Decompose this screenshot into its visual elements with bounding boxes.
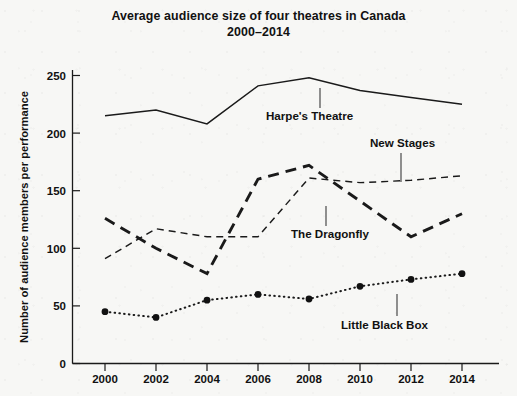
y-tick-label-50: 50: [53, 300, 66, 312]
y-tick-label-250: 250: [47, 70, 66, 82]
series-line-the-dragonfly: [105, 165, 462, 273]
x-tick-label-2012: 2012: [398, 373, 424, 385]
x-axis-tick-labels: 2000 2002 2004 2006 2008 2010 2012 2014: [92, 373, 475, 385]
data-point-marker: [459, 270, 466, 277]
y-tick-label-0: 0: [60, 358, 66, 370]
x-tick-label-2010: 2010: [347, 373, 373, 385]
x-tick-label-2008: 2008: [296, 373, 322, 385]
y-tick-label-150: 150: [47, 185, 66, 197]
annotation-leaders: [320, 88, 401, 316]
annotation-little-black-box: Little Black Box: [341, 318, 429, 331]
line-chart-canvas: 250 200 150 100 50 0 Number of audience …: [0, 0, 517, 396]
x-tick-label-2004: 2004: [194, 373, 220, 385]
chart-page: Average audience size of four theatres i…: [0, 0, 517, 396]
x-tick-label-2002: 2002: [143, 373, 169, 385]
y-axis-tick-labels: 250 200 150 100 50 0: [47, 70, 66, 370]
data-point-marker: [204, 297, 211, 304]
data-point-marker: [306, 296, 313, 303]
data-point-marker: [357, 283, 364, 290]
annotation-new-stages: New Stages: [370, 136, 435, 149]
y-axis-title: Number of audience members per performan…: [18, 91, 30, 343]
data-point-marker: [255, 291, 262, 298]
x-tick-label-2006: 2006: [245, 373, 271, 385]
data-point-marker: [408, 276, 415, 283]
y-tick-label-100: 100: [47, 243, 66, 255]
annotation-harpes-theatre: Harpe's Theatre: [266, 109, 354, 122]
y-tick-label-200: 200: [47, 128, 66, 140]
data-point-marker: [102, 308, 109, 315]
annotation-the-dragonfly: The Dragonfly: [291, 227, 369, 240]
series-line-new-stages: [105, 176, 462, 259]
x-tick-label-2014: 2014: [449, 373, 475, 385]
data-point-marker: [153, 314, 160, 321]
x-tick-label-2000: 2000: [92, 373, 118, 385]
y-axis-ticks: [73, 76, 81, 364]
x-axis-ticks: [105, 364, 462, 372]
